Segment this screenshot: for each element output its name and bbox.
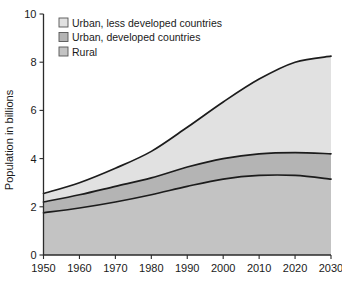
legend-label: Rural	[72, 46, 97, 58]
y-tick-label: 2	[30, 201, 36, 213]
y-tick-label: 0	[30, 249, 36, 261]
x-tick-label: 1960	[67, 262, 91, 274]
y-tick-label: 10	[24, 8, 36, 20]
x-tick-label: 1970	[103, 262, 127, 274]
x-tick-label: 2000	[211, 262, 235, 274]
chart-container: 0246810 19501960197019801990200020102020…	[0, 0, 342, 281]
y-axis-tick-labels: 0246810	[24, 8, 36, 261]
legend-swatch	[59, 18, 68, 27]
x-tick-label: 1980	[139, 262, 163, 274]
x-tick-label: 2030	[319, 262, 342, 274]
legend-label: Urban, less developed countries	[72, 17, 222, 29]
series-bands	[44, 56, 332, 255]
stacked-area-chart: 0246810 19501960197019801990200020102020…	[0, 0, 342, 281]
legend-swatch	[59, 33, 68, 42]
y-tick-label: 4	[30, 153, 36, 165]
x-tick-label: 2020	[283, 262, 307, 274]
x-axis-tick-labels: 195019601970198019902000201020202030	[31, 262, 342, 274]
x-tick-label: 2010	[247, 262, 271, 274]
x-tick-label: 1950	[31, 262, 55, 274]
chart-legend: Urban, less developed countriesUrban, de…	[59, 17, 222, 58]
y-tick-label: 8	[30, 56, 36, 68]
y-axis-title: Population in billions	[3, 89, 15, 190]
legend-swatch	[59, 47, 68, 56]
y-tick-label: 6	[30, 104, 36, 116]
legend-label: Urban, developed countries	[72, 31, 200, 43]
x-tick-label: 1990	[175, 262, 199, 274]
